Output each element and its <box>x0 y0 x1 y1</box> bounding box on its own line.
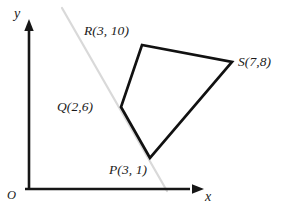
coordinate-figure: R(3, 10) S(7,8) Q(2,6) P(3, 1) y x O <box>0 0 296 211</box>
origin-label: O <box>7 189 16 202</box>
vertex-label-r: R(3, 10) <box>84 24 129 38</box>
vertex-label-q: Q(2,6) <box>57 100 93 114</box>
vertex-label-p: P(3, 1) <box>109 163 147 177</box>
x-axis-arrowhead <box>192 184 204 193</box>
vertex-label-s: S(7,8) <box>238 55 271 69</box>
figure-canvas <box>0 0 296 211</box>
y-axis-label: y <box>14 7 20 21</box>
x-axis-label: x <box>205 190 211 204</box>
y-axis-arrowhead <box>24 19 33 31</box>
